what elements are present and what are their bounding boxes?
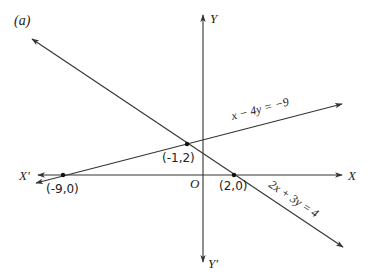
origin-label: O — [190, 177, 199, 190]
y-neg-axis-label: Y' — [208, 257, 218, 270]
point-label-neg1-2: (-1,2) — [162, 152, 195, 164]
figure-tag: (a) — [14, 14, 30, 28]
x-neg-axis-label: X' — [19, 169, 30, 182]
point-label-neg9-0: (-9,0) — [46, 183, 79, 195]
point-label-2-0: (2,0) — [219, 180, 247, 192]
y-axis-label: Y — [210, 12, 217, 25]
x-axis-label: X — [348, 169, 356, 182]
point-neg1-2 — [185, 142, 189, 146]
point-neg9-0 — [61, 173, 65, 177]
graph-figure: (a) Y Y' X X' O (-9,0) (2,0) (-1,2) x − … — [0, 0, 371, 278]
point-2-0 — [232, 173, 236, 177]
graph-canvas — [0, 0, 371, 278]
